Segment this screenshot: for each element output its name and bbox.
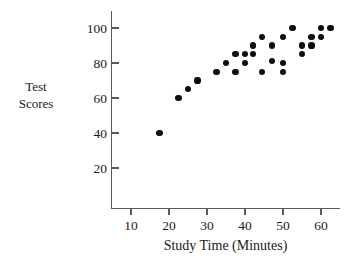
y-tick-20	[112, 167, 119, 168]
x-tick-label-20: 20	[152, 219, 186, 233]
y-tick-label-80: 80	[67, 57, 107, 71]
data-point	[280, 69, 286, 75]
y-tick-label-20: 20	[67, 162, 107, 176]
x-tick-50	[282, 208, 283, 215]
x-tick-label-40: 40	[228, 219, 262, 233]
data-point	[308, 34, 314, 40]
data-point	[242, 60, 248, 66]
x-tick-20	[168, 208, 169, 215]
data-point	[269, 58, 275, 64]
y-tick-80	[112, 62, 119, 63]
data-point	[327, 25, 333, 31]
data-point	[259, 34, 265, 40]
y-tick-label-40: 40	[67, 127, 107, 141]
x-tick-label-30: 30	[190, 219, 224, 233]
data-point	[232, 69, 238, 75]
data-point	[185, 86, 191, 92]
data-point	[232, 51, 238, 57]
data-point	[318, 25, 324, 31]
data-point	[259, 69, 265, 75]
data-point	[223, 60, 229, 66]
y-tick-label-100: 100	[67, 22, 107, 36]
data-point	[242, 51, 248, 57]
y-tick-100	[112, 27, 119, 28]
plot-area: 20406080100 102030405060	[0, 0, 353, 274]
x-tick-label-10: 10	[114, 219, 148, 233]
y-tick-60	[112, 97, 119, 98]
scatter-plot-figure: Test Scores 20406080100 102030405060 Stu…	[0, 0, 353, 274]
x-tick-10	[130, 208, 131, 215]
data-point	[250, 51, 256, 57]
x-axis-line	[111, 208, 340, 209]
data-point	[318, 34, 324, 40]
data-point	[269, 42, 275, 48]
y-axis-line	[111, 11, 112, 209]
y-tick-label-60: 60	[67, 92, 107, 106]
data-point	[175, 95, 181, 101]
data-point	[213, 69, 219, 75]
x-tick-30	[206, 208, 207, 215]
data-point	[194, 77, 200, 83]
data-point	[289, 25, 295, 31]
data-point	[280, 60, 286, 66]
x-tick-60	[320, 208, 321, 215]
data-point	[156, 130, 162, 136]
x-tick-label-50: 50	[266, 219, 300, 233]
x-tick-40	[244, 208, 245, 215]
data-point	[299, 42, 305, 48]
x-tick-label-60: 60	[304, 219, 338, 233]
data-point	[250, 42, 256, 48]
data-point	[308, 42, 314, 48]
data-point	[299, 51, 305, 57]
x-axis-title: Study Time (Minutes)	[111, 238, 340, 254]
data-point	[280, 34, 286, 40]
y-tick-40	[112, 132, 119, 133]
